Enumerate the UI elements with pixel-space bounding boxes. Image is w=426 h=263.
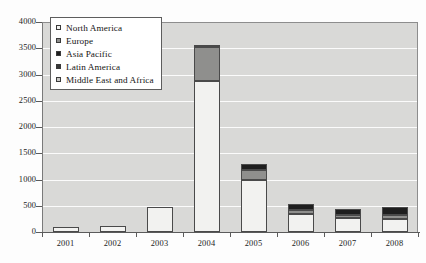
stacked-bar-chart: 05001000150020002500300035004000 2001200… xyxy=(0,0,426,263)
chart-legend: North AmericaEuropeAsia PacificLatin Ame… xyxy=(50,17,162,90)
legend-item-label: Latin America xyxy=(66,62,120,72)
legend-item[interactable]: Europe xyxy=(56,34,154,47)
y-axis-tick-label: 500 xyxy=(2,202,36,210)
legend-item-label: Asia Pacific xyxy=(66,49,112,59)
x-axis-tick-label: 2005 xyxy=(231,239,277,248)
bar-segment[interactable] xyxy=(241,180,267,232)
y-axis-tick-mark xyxy=(36,101,42,102)
y-axis-tick-label: 0 xyxy=(2,228,36,236)
legend-swatch-icon xyxy=(56,38,61,43)
x-axis-tick-label: 2008 xyxy=(372,239,418,248)
y-axis-tick-mark xyxy=(36,22,42,23)
bar-segment[interactable] xyxy=(335,215,361,218)
x-axis-tick-mark xyxy=(418,232,419,237)
legend-item[interactable]: Asia Pacific xyxy=(56,47,154,60)
legend-item[interactable]: Middle East and Africa xyxy=(56,73,154,86)
y-axis-tick-mark xyxy=(36,48,42,49)
x-axis-tick-mark xyxy=(230,232,231,237)
y-axis-tick-label: 3000 xyxy=(2,71,36,79)
x-axis-tick-mark xyxy=(277,232,278,237)
bar-group[interactable] xyxy=(288,22,314,232)
y-axis-tick-label: 2000 xyxy=(2,123,36,131)
bar-segment[interactable] xyxy=(194,47,220,81)
legend-item-label: Europe xyxy=(66,36,93,46)
y-axis-tick-label: 3500 xyxy=(2,44,36,52)
bar-segment[interactable] xyxy=(194,81,220,232)
legend-swatch-icon xyxy=(56,64,61,69)
x-axis-line xyxy=(36,232,420,233)
bar-segment[interactable] xyxy=(288,204,314,211)
y-axis: 05001000150020002500300035004000 xyxy=(0,0,36,263)
y-axis-tick-mark xyxy=(36,127,42,128)
x-axis-tick-mark xyxy=(136,232,137,237)
bar-segment[interactable] xyxy=(382,219,408,232)
x-axis-tick-label: 2007 xyxy=(325,239,371,248)
legend-item[interactable]: Latin America xyxy=(56,60,154,73)
bar-segment[interactable] xyxy=(288,210,314,213)
x-axis-tick-label: 2002 xyxy=(90,239,136,248)
y-axis-tick-label: 1000 xyxy=(2,176,36,184)
bar-segment[interactable] xyxy=(194,45,220,48)
bar-segment[interactable] xyxy=(288,214,314,232)
bar-segment[interactable] xyxy=(382,215,408,219)
legend-swatch-icon xyxy=(56,25,61,30)
legend-item[interactable]: North America xyxy=(56,21,154,34)
y-axis-tick-mark xyxy=(36,75,42,76)
legend-item-label: Middle East and Africa xyxy=(66,75,154,85)
x-axis-tick-mark xyxy=(89,232,90,237)
y-axis-tick-label: 2500 xyxy=(2,97,36,105)
y-axis-tick-mark xyxy=(36,180,42,181)
bar-segment[interactable] xyxy=(147,207,173,232)
x-axis-tick-label: 2001 xyxy=(43,239,89,248)
y-axis-tick-mark xyxy=(36,153,42,154)
bar-group[interactable] xyxy=(194,22,220,232)
bar-group[interactable] xyxy=(335,22,361,232)
legend-swatch-icon xyxy=(56,77,61,82)
y-axis-tick-mark xyxy=(36,206,42,207)
bar-group[interactable] xyxy=(241,22,267,232)
x-axis-tick-mark xyxy=(42,232,43,237)
legend-swatch-icon xyxy=(56,51,61,56)
x-axis-tick-label: 2004 xyxy=(184,239,230,248)
bar-group[interactable] xyxy=(382,22,408,232)
bar-segment[interactable] xyxy=(241,164,267,169)
x-axis-tick-mark xyxy=(324,232,325,237)
y-axis-tick-label: 1500 xyxy=(2,149,36,157)
y-axis-tick-label: 4000 xyxy=(2,18,36,26)
x-axis-tick-label: 2006 xyxy=(278,239,324,248)
bar-segment[interactable] xyxy=(335,209,361,215)
bar-segment[interactable] xyxy=(335,218,361,232)
x-axis-tick-label: 2003 xyxy=(137,239,183,248)
legend-item-label: North America xyxy=(66,23,122,33)
bar-segment[interactable] xyxy=(382,207,408,215)
x-axis-tick-mark xyxy=(371,232,372,237)
bar-segment[interactable] xyxy=(241,170,267,181)
x-axis-tick-mark xyxy=(183,232,184,237)
